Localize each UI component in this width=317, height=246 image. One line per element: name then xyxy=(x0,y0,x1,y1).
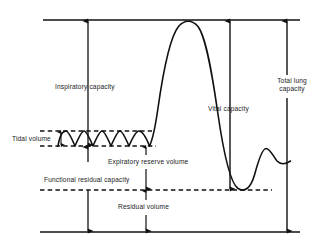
tidal-volume-label: Tidal volume xyxy=(12,135,51,143)
expiratory-reserve-volume-label: Expiratory reserve volume xyxy=(108,158,188,166)
functional-residual-capacity-label: Functional residual capacity xyxy=(44,176,130,184)
total-lung-capacity-label: Total lung capacity xyxy=(271,77,313,94)
total-lung-capacity-label-line1: Total lung xyxy=(277,77,307,84)
total-lung-capacity-label-line2: capacity xyxy=(279,85,304,92)
spirogram-figure: Inspiratory capacity Tidal volume Expira… xyxy=(0,0,317,246)
vital-capacity-label: Vital capacity xyxy=(208,105,249,113)
inspiratory-capacity-label: Inspiratory capacity xyxy=(55,83,115,91)
residual-volume-label: Residual volume xyxy=(118,203,169,211)
